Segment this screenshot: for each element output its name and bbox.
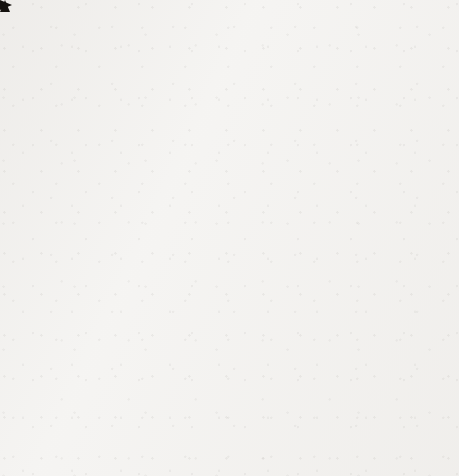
plot-area <box>0 0 459 476</box>
coordinate-grid-figure <box>0 0 459 476</box>
y-axis-arrow-icon <box>0 0 10 12</box>
